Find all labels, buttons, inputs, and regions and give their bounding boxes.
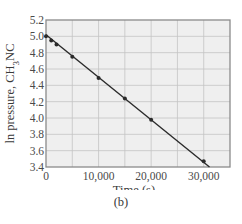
data-point xyxy=(97,76,101,80)
y-tick-label: 3.6 xyxy=(30,145,45,157)
data-point xyxy=(44,34,48,38)
y-tick-label: 4.4 xyxy=(30,79,45,91)
data-point xyxy=(49,38,53,42)
y-tick-label: 4.0 xyxy=(30,112,45,124)
x-axis-ticks: 010,00020,00030,000 xyxy=(43,170,220,183)
data-point xyxy=(123,96,127,100)
y-axis-title-suffix: NC xyxy=(3,44,17,61)
y-tick-label: 4.8 xyxy=(30,47,45,59)
y-axis-title-main: ln pressure, CH xyxy=(3,65,17,143)
data-point xyxy=(149,118,153,122)
data-point xyxy=(55,43,59,47)
y-axis-ticks: 3.43.63.84.04.24.44.64.85.05.2 xyxy=(30,14,45,173)
y-axis-title: ln pressure, CH3NC xyxy=(3,44,21,144)
x-tick-label: 30,000 xyxy=(188,170,220,183)
chart: 3.43.63.84.04.24.44.64.85.05.2 010,00020… xyxy=(0,0,242,190)
x-axis-title: Time (s) xyxy=(113,183,155,190)
y-tick-label: 5.2 xyxy=(30,14,45,26)
data-point xyxy=(70,55,74,59)
y-tick-label: 3.4 xyxy=(30,161,45,173)
y-tick-label: 4.2 xyxy=(30,96,45,108)
data-point xyxy=(202,159,206,163)
y-tick-label: 3.8 xyxy=(30,128,45,140)
figure-caption: (b) xyxy=(0,195,242,210)
x-tick-label: 10,000 xyxy=(83,170,115,183)
x-tick-label: 20,000 xyxy=(135,170,167,183)
y-tick-label: 4.6 xyxy=(30,63,45,75)
y-tick-label: 5.0 xyxy=(30,30,45,42)
x-tick-label: 0 xyxy=(43,170,49,182)
plot-area xyxy=(46,20,230,167)
